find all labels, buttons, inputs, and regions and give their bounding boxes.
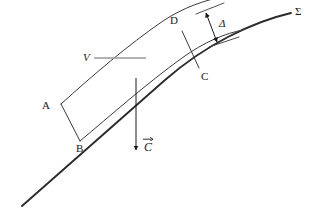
label-point-b: B: [76, 143, 83, 154]
label-point-a: A: [42, 100, 50, 111]
label-volume-v: V: [83, 52, 90, 63]
delta-guide-upper: [196, 3, 224, 14]
label-delta: Δ: [219, 18, 225, 29]
band-lower-boundary: [80, 30, 243, 141]
band-end-segment-ab: [61, 104, 80, 141]
geometry-diagram: Σ Δ D C A B V C: [0, 0, 315, 212]
label-vector-c: C: [144, 141, 152, 153]
label-sigma: Σ: [295, 6, 301, 17]
surface-curve-sigma: [22, 13, 291, 206]
band-end-segment-dc: [182, 31, 199, 68]
delta-dimension-arrow: [206, 13, 217, 42]
label-point-c: C: [201, 71, 208, 82]
label-point-d: D: [170, 15, 178, 26]
vector-c-letter: C: [144, 140, 152, 154]
vector-c-glyph: C: [144, 141, 152, 153]
